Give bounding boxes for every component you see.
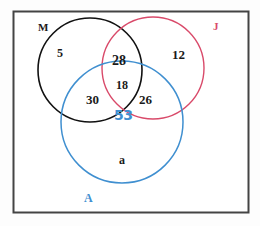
region-value-j-only: 12 <box>172 48 185 61</box>
handwritten-total-annotation: 53 <box>114 108 132 122</box>
set-label-j: J <box>213 21 219 32</box>
region-value-m-only: 5 <box>57 47 63 59</box>
region-value-m-and-j: 28 <box>112 54 126 68</box>
venn-diagram: M J A 5 28 12 18 30 26 a 53 <box>0 0 260 226</box>
region-value-j-and-a: 26 <box>139 93 152 106</box>
set-label-a: A <box>84 192 93 204</box>
region-value-m-and-a: 30 <box>86 93 99 106</box>
region-value-a-only: a <box>119 154 125 166</box>
region-value-m-j-a: 18 <box>116 79 128 91</box>
set-label-m: M <box>38 22 48 33</box>
